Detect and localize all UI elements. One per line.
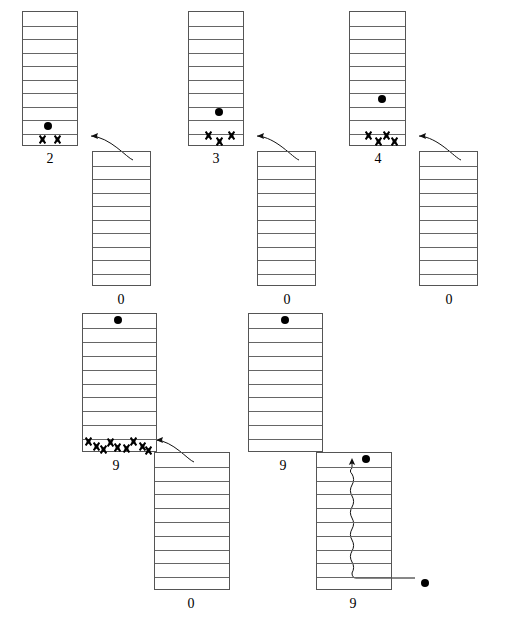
- ladder-rung: [249, 356, 322, 357]
- ladder-rung: [258, 166, 315, 167]
- ladder-rung: [23, 134, 77, 135]
- ladder-rung: [350, 26, 405, 27]
- ladder-rung: [249, 384, 322, 385]
- ladder-rung: [317, 577, 391, 578]
- mark-x: [145, 446, 152, 455]
- ladder-count-label: 2: [35, 152, 65, 166]
- ladder-rung: [249, 397, 322, 398]
- ladder-rung: [258, 179, 315, 180]
- token-dot: [421, 579, 429, 587]
- ladder-rung: [83, 328, 156, 329]
- ladder-rung: [258, 233, 315, 234]
- ladder-rung: [93, 233, 150, 234]
- token-dot: [378, 95, 386, 103]
- mark-x: [100, 445, 107, 454]
- ladder-rung: [189, 26, 243, 27]
- ladder-rung: [83, 342, 156, 343]
- ladder-rung: [420, 260, 477, 261]
- ladder-rung: [23, 93, 77, 94]
- ladder-count-label: 0: [106, 293, 136, 307]
- ladder-upper-frame-2: [188, 11, 244, 146]
- ladder-rung: [155, 536, 229, 537]
- ladder-rung: [189, 93, 243, 94]
- ladder-rung: [350, 120, 405, 121]
- diagram-canvas: 2030409099: [0, 0, 510, 628]
- mark-x: [130, 437, 137, 446]
- ladder-rung: [189, 120, 243, 121]
- ladder-rung: [23, 53, 77, 54]
- ladder-rung: [420, 206, 477, 207]
- ladder-count-label: 9: [338, 597, 368, 611]
- ladder-rung: [420, 233, 477, 234]
- ladder-rung: [350, 93, 405, 94]
- ladder-count-label: 0: [434, 293, 464, 307]
- ladder-lower-frame-3: [419, 151, 478, 286]
- ladder-count-label: 4: [363, 152, 393, 166]
- ladder-rung: [155, 467, 229, 468]
- ladder-rung: [23, 66, 77, 67]
- ladder-rung: [83, 439, 156, 440]
- ladder-count-label: 9: [268, 459, 298, 473]
- mark-x: [365, 131, 372, 140]
- mark-x: [375, 137, 382, 146]
- ladder-rung: [350, 53, 405, 54]
- ladder-upper-frame-5: [248, 313, 323, 452]
- ladder-lower-frame-4: [154, 452, 230, 590]
- ladder-rung: [249, 439, 322, 440]
- ladder-count-label: 3: [201, 152, 231, 166]
- ladder-count-label: 0: [176, 597, 206, 611]
- ladder-rung: [23, 80, 77, 81]
- ladder-rung: [155, 508, 229, 509]
- mark-x: [93, 442, 100, 451]
- ladder-rung: [258, 260, 315, 261]
- ladder-rung: [350, 134, 405, 135]
- mark-x: [39, 135, 46, 144]
- ladder-rung: [249, 411, 322, 412]
- ladder-rung: [317, 550, 391, 551]
- token-dot: [215, 108, 223, 116]
- ladder-rung: [83, 397, 156, 398]
- ladder-rung: [93, 206, 150, 207]
- ladder-rung: [23, 120, 77, 121]
- mark-x: [205, 131, 212, 140]
- ladder-count-label: 0: [272, 293, 302, 307]
- ladder-rung: [258, 247, 315, 248]
- ladder-rung: [420, 220, 477, 221]
- ladder-rung: [155, 563, 229, 564]
- ladder-rung: [93, 220, 150, 221]
- ladder-count-label: 9: [101, 459, 131, 473]
- ladder-rung: [420, 166, 477, 167]
- ladder-rung: [23, 26, 77, 27]
- ladder-rung: [317, 467, 391, 468]
- token-dot: [281, 316, 289, 324]
- ladder-rung: [258, 274, 315, 275]
- mark-x: [114, 443, 121, 452]
- ladder-rung: [189, 80, 243, 81]
- ladder-rung: [317, 481, 391, 482]
- ladder-rung: [93, 274, 150, 275]
- ladder-rung: [350, 66, 405, 67]
- ladder-rung: [83, 411, 156, 412]
- ladder-rung: [155, 522, 229, 523]
- ladder-lower-frame-6: [316, 452, 392, 590]
- ladder-rung: [317, 536, 391, 537]
- ladder-rung: [189, 53, 243, 54]
- ladder-rung: [83, 425, 156, 426]
- ladder-rung: [350, 107, 405, 108]
- mark-x: [123, 444, 130, 453]
- ladder-rung: [249, 328, 322, 329]
- ladder-lower-frame-1: [92, 151, 151, 286]
- token-dot: [362, 455, 370, 463]
- ladder-upper-frame-3: [349, 11, 406, 146]
- ladder-rung: [155, 550, 229, 551]
- ladder-rung: [420, 274, 477, 275]
- ladder-rung: [258, 193, 315, 194]
- ladder-rung: [317, 508, 391, 509]
- mark-x: [383, 131, 390, 140]
- ladder-upper-frame-4: [82, 313, 157, 452]
- mark-x: [54, 135, 61, 144]
- ladder-rung: [249, 370, 322, 371]
- mark-x: [107, 438, 114, 447]
- ladder-rung: [189, 39, 243, 40]
- ladder-rung: [83, 384, 156, 385]
